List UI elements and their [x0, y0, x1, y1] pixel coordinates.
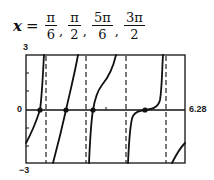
zero-point-marker [90, 107, 95, 112]
graph-plot [0, 0, 214, 180]
zero-point-marker [142, 107, 147, 112]
curve-branch-1 [26, 55, 44, 143]
zero-point-marker [63, 107, 68, 112]
curve-branch-5 [172, 143, 185, 163]
zero-point-marker [37, 107, 42, 112]
